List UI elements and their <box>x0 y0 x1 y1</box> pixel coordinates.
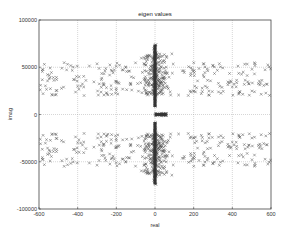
x-tick-label: 200 <box>189 211 198 217</box>
x-tick-label: 0 <box>153 211 156 217</box>
y-axis-ticks: -100000-50000050000100000 <box>17 17 41 212</box>
x-axis-label: real <box>150 222 159 228</box>
y-tick-label: 100000 <box>19 17 37 23</box>
y-tick-label: -100000 <box>17 206 37 212</box>
x-tick-label: -200 <box>111 211 122 217</box>
chart-title: eigen values <box>138 11 172 17</box>
y-tick-label: 50000 <box>22 64 37 70</box>
eigenvalue-scatter-chart: eigen values -600-400-2000200400600 -100… <box>0 0 282 232</box>
data-points <box>39 43 272 185</box>
x-tick-label: 600 <box>266 211 275 217</box>
x-tick-label: -400 <box>72 211 83 217</box>
x-tick-label: 400 <box>228 211 237 217</box>
y-tick-label: -50000 <box>20 159 37 165</box>
x-axis-ticks: -600-400-2000200400600 <box>33 207 275 217</box>
y-axis-label: imag <box>7 108 13 120</box>
y-tick-label: 0 <box>34 112 37 118</box>
